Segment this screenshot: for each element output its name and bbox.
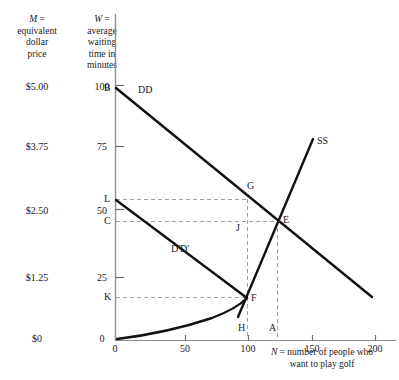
y-axis-ticks xyxy=(116,86,125,278)
point-label-B: B xyxy=(104,82,111,93)
point-label-G: G xyxy=(247,180,254,191)
curve-waiting-time xyxy=(117,298,247,339)
curve-label-D-prime: D'D' xyxy=(171,243,189,254)
x-tick-label-0: 0 xyxy=(105,343,125,354)
point-label-C: C xyxy=(104,215,111,226)
curve-label-SS: SS xyxy=(317,135,328,146)
x-axis-caption: N = number of people who want to play go… xyxy=(252,347,392,370)
curve-label-DD: DD xyxy=(138,84,152,95)
point-label-K: K xyxy=(104,291,111,302)
curve-DD xyxy=(116,88,372,297)
x-tick-label-50: 50 xyxy=(175,343,195,354)
chart-plot-area xyxy=(0,0,399,380)
reference-dashed-lines xyxy=(116,199,278,338)
figure-canvas: M = equivalent dollar price W = average … xyxy=(0,0,399,380)
point-label-H: H xyxy=(238,322,245,333)
point-label-F: F xyxy=(251,292,257,303)
point-label-E: E xyxy=(283,214,289,225)
point-label-A: A xyxy=(269,322,276,333)
curve-SS xyxy=(238,139,313,317)
point-label-L: L xyxy=(104,193,110,204)
point-label-J: J xyxy=(236,222,240,233)
x-axis-caption-line2: want to play golf xyxy=(252,359,392,371)
